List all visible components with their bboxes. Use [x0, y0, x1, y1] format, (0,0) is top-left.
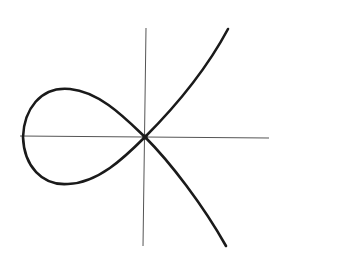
node-point	[142, 134, 147, 139]
nodal-cubic-diagram	[0, 0, 342, 267]
curve-upper-branch	[145, 29, 228, 137]
curve-lower-branch	[145, 137, 226, 246]
